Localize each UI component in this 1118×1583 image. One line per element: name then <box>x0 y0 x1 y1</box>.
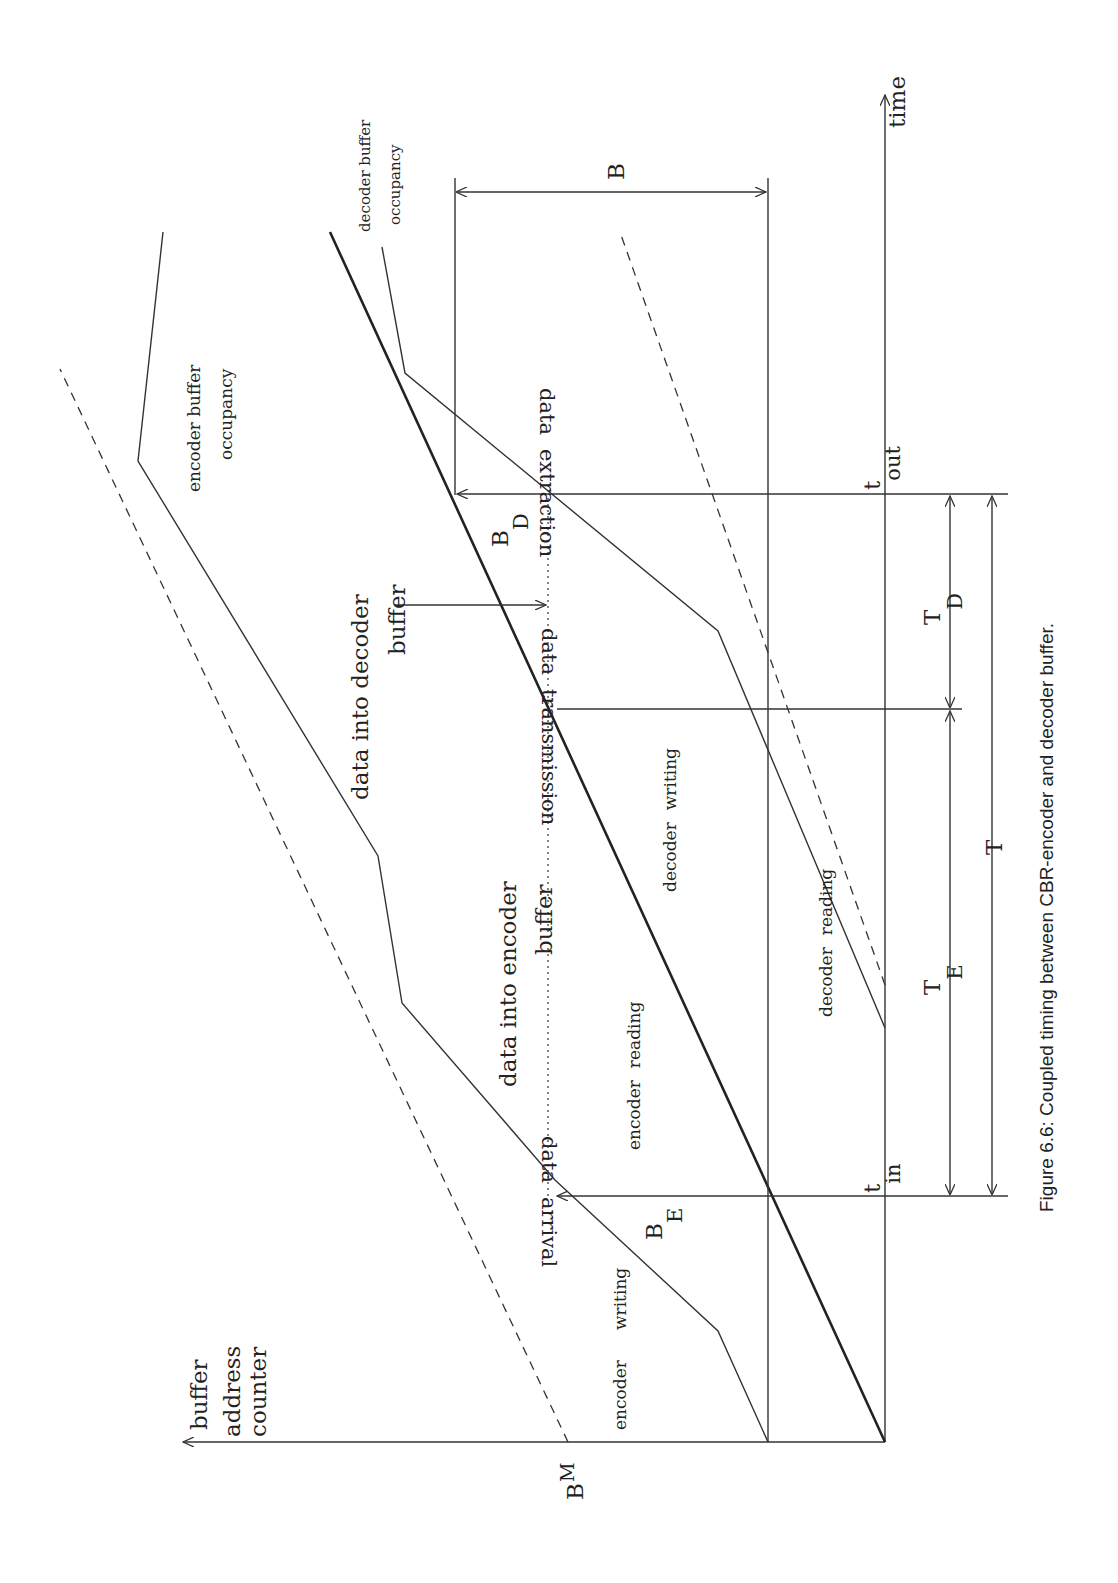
encoder-limit-dashed <box>60 369 568 1442</box>
encoder-writing-label-2: writing <box>610 1268 630 1330</box>
figure-caption: Figure 6.6: Coupled timing between CBR-e… <box>1036 623 1057 1212</box>
be-label: BE <box>641 1208 687 1240</box>
axis-counter-label: counter <box>245 1347 271 1437</box>
decoder-buffer-occupancy-label-2: occupancy <box>386 144 404 225</box>
encoder-writing-label-1: encoder <box>610 1359 630 1430</box>
encoder-buffer-occupancy-label-2: occupancy <box>216 368 236 460</box>
encoder-reading-label: encoderreading <box>624 1002 644 1150</box>
data-arrival-label: dataarrival <box>537 1136 561 1268</box>
data-extraction-label: dataextraction <box>535 388 559 557</box>
t-out-label: tout <box>859 446 905 490</box>
td-label: TD <box>919 593 967 625</box>
t-in-label: tin <box>859 1164 905 1194</box>
t-label: T <box>981 839 1007 855</box>
axis-time-label: time <box>884 76 910 128</box>
transmission-line <box>330 232 885 1442</box>
te-label: TE <box>919 964 967 995</box>
timing-diagram: time buffer address counter BM data into… <box>0 0 1118 1583</box>
decoder-reading-curve <box>382 247 885 1028</box>
data-into-encoder-buffer: buffer <box>531 885 557 955</box>
data-transmission-label: datatransmission <box>537 628 561 825</box>
decoder-reading-label: decoderreading <box>816 869 836 1017</box>
b-label: B <box>603 163 629 180</box>
axis-buffer-label: buffer <box>186 1360 212 1430</box>
decoder-writing-label: decoderwriting <box>660 748 680 892</box>
data-into-decoder-label: data into decoder <box>347 594 373 800</box>
data-into-decoder-buffer: buffer <box>384 585 410 655</box>
bd-label: BD <box>487 513 533 547</box>
encoder-buffer-occupancy-label: encoder buffer <box>184 364 204 492</box>
data-into-encoder-label: data into encoder <box>495 881 521 1087</box>
axis-address-label: address <box>219 1346 245 1437</box>
decoder-buffer-occupancy-label: decoder buffer <box>356 119 374 232</box>
bm-label: BM <box>556 1463 588 1500</box>
